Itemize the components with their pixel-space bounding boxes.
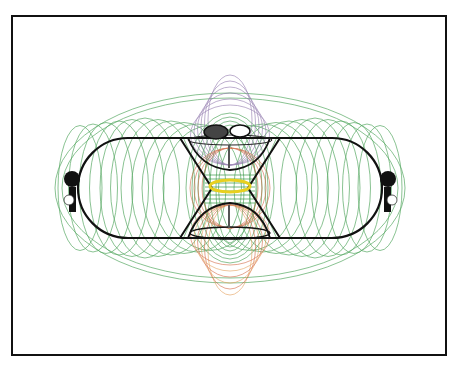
green-field-lines [55, 93, 405, 283]
top-right-coil [230, 125, 250, 137]
top-left-coil [204, 125, 228, 139]
field-diagram [0, 0, 460, 367]
upper-bowl-rim [188, 135, 272, 145]
